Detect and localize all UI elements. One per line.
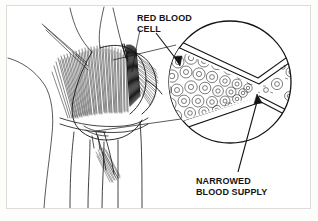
label-red-blood-cell: RED BLOOD CELL — [137, 13, 192, 34]
magnified-vessel-inset — [160, 21, 303, 143]
fascia-strands — [42, 24, 88, 70]
label-narrowed-blood-supply: NARROWED BLOOD SUPPLY — [196, 176, 267, 197]
muscle-hatching-thigh — [96, 148, 120, 182]
muscle-hatching-trochanter — [138, 56, 158, 105]
illustration-page: RED BLOOD CELL NARROWED BLOOD SUPPLY — [0, 0, 318, 221]
muscle-hatching-main — [52, 46, 128, 118]
anatomy-drawing — [8, 7, 162, 208]
